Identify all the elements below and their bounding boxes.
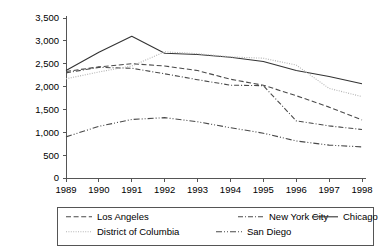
legend-label-chicago: Chicago (343, 211, 378, 222)
y-axis-tick-label: 3,500 (35, 12, 59, 23)
y-axis-tick-label: 1,500 (35, 104, 59, 115)
series-line-san-diego (66, 118, 362, 147)
x-axis-tick-label: 1996 (286, 184, 307, 195)
x-axis-tick-label: 1989 (55, 184, 76, 195)
y-axis-tick-label: 2,500 (35, 58, 59, 69)
x-axis-tick-label: 1997 (319, 184, 340, 195)
x-axis-tick-label: 1998 (351, 184, 372, 195)
y-axis-tick-label: 500 (43, 150, 59, 161)
series-line-chicago (66, 36, 362, 84)
x-axis-tick-label: 1993 (187, 184, 208, 195)
x-axis: 1989199019911992199319941995199619971998 (55, 178, 372, 195)
y-axis-tick-label: 2,000 (35, 81, 59, 92)
x-axis-tick-label: 1990 (88, 184, 109, 195)
x-axis-tick-label: 1995 (253, 184, 274, 195)
y-axis-tick-label: 1,000 (35, 127, 59, 138)
legend-label-san-diego: San Diego (247, 226, 291, 237)
x-axis-tick-label: 1991 (121, 184, 142, 195)
series-line-new-york-city (66, 67, 362, 129)
series-lines (66, 36, 362, 147)
y-axis-tick-label: 0 (54, 172, 59, 183)
chart-legend: Los AngelesNew York CityChicagoDistrict … (57, 207, 378, 245)
y-axis: 05001,0001,5002,0002,5003,0003,500 (35, 12, 66, 183)
x-axis-tick-label: 1992 (154, 184, 175, 195)
legend-label-los-angeles: Los Angeles (97, 211, 149, 222)
line-chart-figure: 05001,0001,5002,0002,5003,0003,500 19891… (0, 0, 379, 252)
chart-canvas: 05001,0001,5002,0002,5003,0003,500 19891… (0, 0, 379, 252)
x-axis-tick-label: 1994 (220, 184, 241, 195)
series-line-los-angeles (66, 64, 362, 120)
y-axis-tick-label: 3,000 (35, 35, 59, 46)
legend-label-district-of-columbia: District of Columbia (97, 226, 180, 237)
